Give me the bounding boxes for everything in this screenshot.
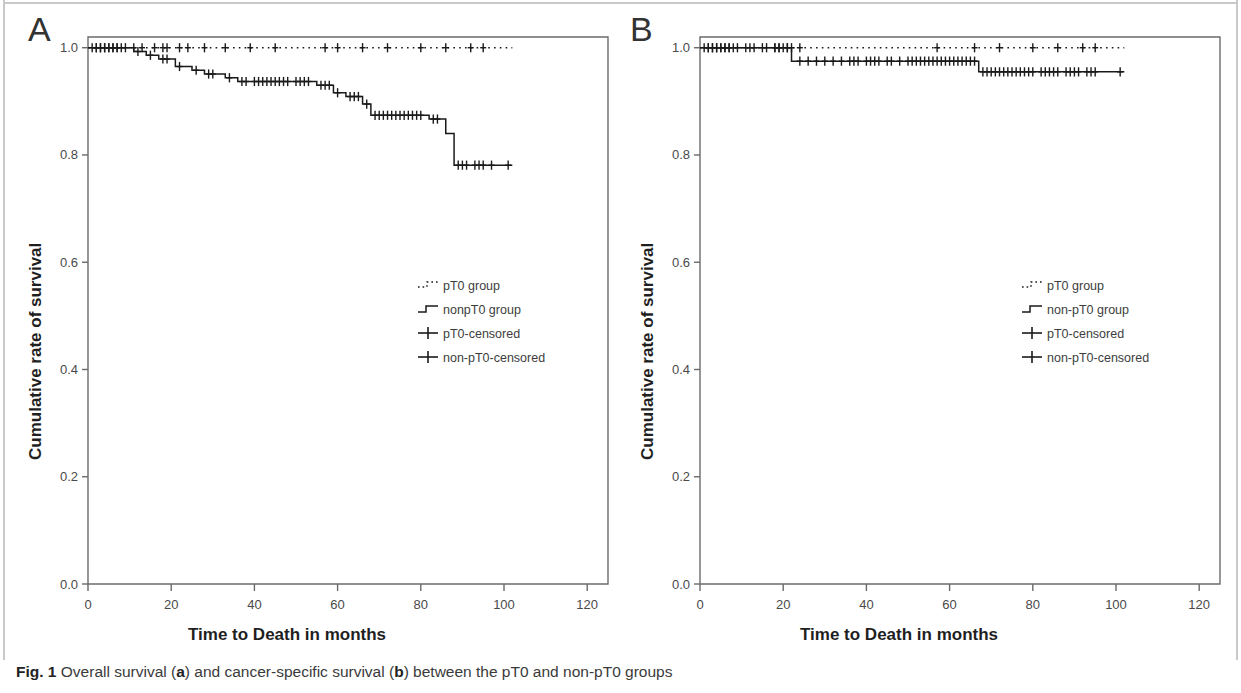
censoring-mark: [759, 43, 765, 52]
censoring-mark: [201, 43, 207, 52]
censoring-mark: [247, 43, 253, 52]
censoring-mark: [322, 43, 328, 52]
censoring-mark: [972, 57, 978, 66]
censoring-mark: [335, 43, 341, 52]
y-tick-label: 0.4: [60, 362, 78, 377]
x-tick-label: 60: [330, 597, 344, 612]
panel-a: A Cumulative rate of survival Time to De…: [0, 0, 620, 650]
censoring-mark: [360, 43, 366, 52]
censoring-mark: [464, 161, 470, 170]
censoring-mark: [1055, 43, 1061, 52]
y-tick-label: 0.4: [672, 362, 690, 377]
legend-label: pT0 group: [443, 279, 500, 293]
y-tick-label: 1.0: [60, 40, 78, 55]
x-tick-label: 100: [493, 597, 515, 612]
censoring-mark: [147, 51, 153, 60]
censoring-mark: [1092, 43, 1098, 52]
legend-item: pT0-censored: [1022, 327, 1124, 341]
censoring-mark: [193, 66, 199, 75]
censoring-mark: [355, 92, 361, 101]
censoring-mark: [468, 43, 474, 52]
legend-label: nonpT0 group: [443, 303, 521, 317]
censoring-mark: [210, 69, 216, 78]
censoring-mark: [326, 81, 332, 90]
y-tick-label: 0.2: [60, 469, 78, 484]
x-tick-label: 40: [247, 597, 261, 612]
censoring-mark: [418, 111, 424, 120]
y-tick-label: 1.0: [672, 40, 690, 55]
censoring-mark: [385, 43, 391, 52]
x-tick-label: 60: [942, 597, 956, 612]
panel-a-x-axis-title: Time to Death in months: [188, 625, 386, 645]
censoring-mark: [305, 77, 311, 86]
censoring-mark: [285, 77, 291, 86]
panel-b-x-axis-title: Time to Death in months: [800, 625, 998, 645]
survival-curve: [88, 48, 512, 165]
censoring-mark: [118, 43, 124, 52]
censoring-mark: [830, 57, 836, 66]
censoring-mark: [272, 43, 278, 52]
legend-label: non-pT0-censored: [443, 351, 545, 365]
legend-item: pT0 group: [1022, 279, 1104, 293]
censoring-mark: [747, 43, 753, 52]
censoring-mark: [505, 161, 511, 170]
x-tick-label: 0: [696, 597, 703, 612]
page-border-right: [1236, 0, 1238, 660]
panel-b-plot: 0.00.20.40.60.81.0020406080100120pT0 gro…: [612, 0, 1232, 620]
y-tick-label: 0.6: [672, 255, 690, 270]
censoring-mark: [730, 43, 736, 52]
censoring-mark: [1117, 67, 1123, 76]
censoring-mark: [997, 43, 1003, 52]
censoring-mark: [1076, 67, 1082, 76]
censoring-mark: [480, 161, 486, 170]
censoring-mark: [152, 43, 158, 52]
x-tick-label: 20: [164, 597, 178, 612]
caption-label-a: a: [176, 663, 185, 680]
caption-label-b: b: [394, 663, 403, 680]
censoring-mark: [164, 43, 170, 52]
caption-part-2: ) and cancer-specific survival (: [185, 663, 394, 680]
legend-item: non-pT0-censored: [1022, 351, 1149, 365]
censoring-mark: [222, 43, 228, 52]
censoring-mark: [177, 62, 183, 71]
censoring-mark: [1092, 67, 1098, 76]
censoring-mark: [934, 43, 940, 52]
censoring-mark: [1030, 43, 1036, 52]
censoring-mark: [813, 57, 819, 66]
censoring-mark: [972, 43, 978, 52]
censoring-mark: [805, 57, 811, 66]
censoring-mark: [897, 57, 903, 66]
caption-figure-number: Fig. 1: [16, 663, 56, 680]
y-tick-label: 0.2: [672, 469, 690, 484]
legend-item: pT0 group: [418, 279, 500, 293]
censoring-mark: [1055, 67, 1061, 76]
censoring-mark: [480, 43, 486, 52]
legend-item: nonpT0 group: [418, 303, 521, 317]
x-tick-label: 40: [859, 597, 873, 612]
caption-part-1: Overall survival (: [56, 663, 176, 680]
y-tick-label: 0.0: [672, 577, 690, 592]
censoring-mark: [797, 43, 803, 52]
legend-label: pT0-censored: [1047, 327, 1124, 341]
censoring-mark: [822, 57, 828, 66]
legend-item: non-pT0 group: [1022, 303, 1129, 317]
censoring-mark: [335, 88, 341, 97]
censoring-mark: [489, 161, 495, 170]
censoring-mark: [177, 43, 183, 52]
censoring-mark: [876, 57, 882, 66]
x-tick-label: 100: [1105, 597, 1127, 612]
censoring-mark: [418, 43, 424, 52]
censoring-mark: [164, 54, 170, 63]
figure-caption: Fig. 1 Overall survival (a) and cancer-s…: [16, 662, 1216, 683]
censoring-mark: [226, 73, 232, 82]
x-tick-label: 0: [84, 597, 91, 612]
panel-a-plot: 0.00.20.40.60.81.0020406080100120pT0 gro…: [0, 0, 620, 620]
censoring-mark: [855, 57, 861, 66]
censoring-mark: [364, 99, 370, 108]
caption-part-3: ) between the pT0 and non-pT0 groups: [404, 663, 673, 680]
legend-item: pT0-censored: [418, 327, 520, 341]
censoring-mark: [784, 43, 790, 52]
legend-label: non-pT0-censored: [1047, 351, 1149, 365]
legend-label: non-pT0 group: [1047, 303, 1129, 317]
legend-label: pT0 group: [1047, 279, 1104, 293]
